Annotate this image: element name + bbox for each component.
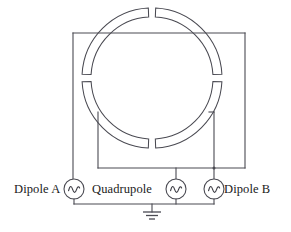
source-dipole-a-body [64, 179, 84, 199]
electrode-segment-bottom-right [155, 81, 222, 147]
label-dipole-a: Dipole A [14, 183, 60, 196]
electrode-segment-top-left [82, 8, 149, 74]
electrode-segment-top-right [155, 8, 222, 74]
circuit-schematic: .wire { fill: none; stroke: #4a4a52; str… [0, 0, 291, 232]
source-dipole-a[interactable] [64, 179, 84, 199]
quadrupole-electrode-ring [82, 8, 222, 148]
ground-network [74, 199, 214, 219]
source-dipole-b-body [204, 179, 224, 199]
source-quadrupole-body [166, 179, 186, 199]
label-dipole-b: Dipole B [224, 183, 270, 196]
electrode-segment-bottom-left [82, 81, 149, 147]
outer-wire-loop [73, 33, 245, 179]
ground-icon [143, 212, 161, 219]
source-quadrupole[interactable] [166, 179, 186, 199]
label-quadrupole: Quadrupole [92, 183, 152, 196]
junction-node-dipole-b [213, 167, 216, 170]
source-dipole-b[interactable] [204, 179, 224, 199]
figure-canvas: .wire { fill: none; stroke: #4a4a52; str… [0, 0, 291, 232]
